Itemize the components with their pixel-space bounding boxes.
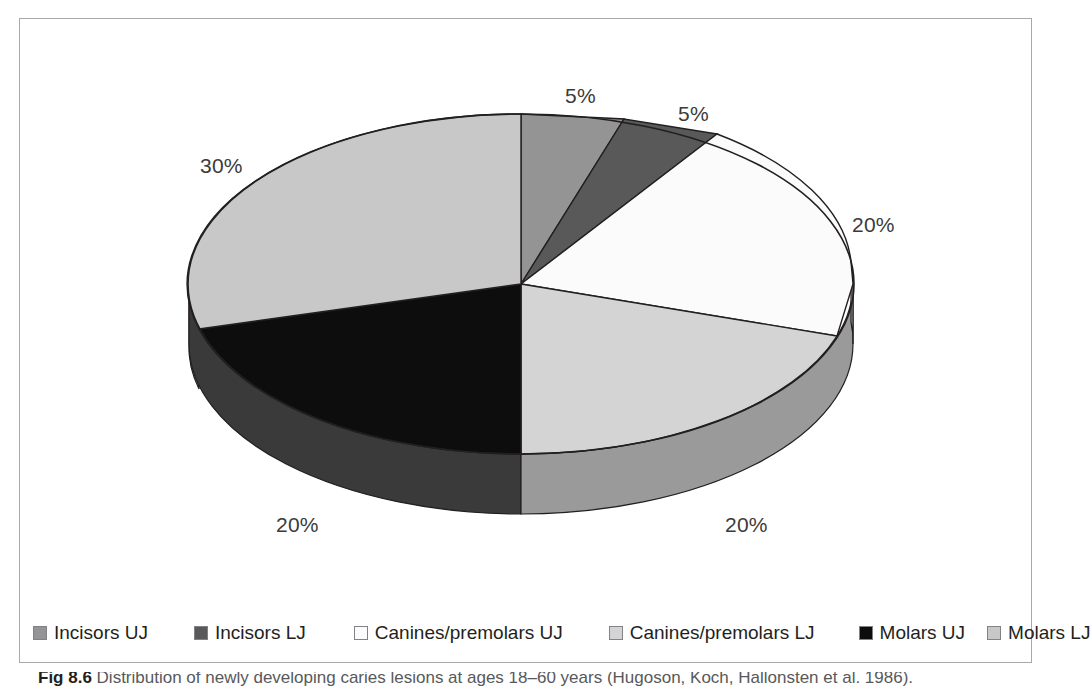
data-label-incisors-lj: 5% — [678, 102, 709, 126]
chart-legend: Incisors UJ Incisors LJ Canines/premolar… — [33, 615, 1033, 651]
figure-caption: Fig 8.6 Distribution of newly developing… — [38, 672, 913, 688]
legend-label-canines-premolars-uj: Canines/premolars UJ — [375, 623, 563, 643]
legend-swatch-icon-canines-premolars-uj — [354, 626, 368, 640]
data-label-molars-lj: 30% — [200, 154, 243, 178]
pie-chart-graphic — [20, 19, 1033, 604]
legend-label-canines-premolars-lj: Canines/premolars LJ — [630, 623, 815, 643]
legend-swatch-icon-incisors-uj — [33, 626, 47, 640]
legend-item-molars-lj[interactable]: Molars LJ — [987, 623, 1090, 643]
figure-caption-number: Fig 8.6 — [38, 672, 92, 687]
legend-label-incisors-uj: Incisors UJ — [54, 623, 148, 643]
pie-chart: 5% 5% 20% 20% 20% 30% — [20, 19, 1033, 604]
legend-label-molars-lj: Molars LJ — [1008, 623, 1090, 643]
legend-swatch-icon-canines-premolars-lj — [609, 626, 623, 640]
legend-label-molars-uj: Molars UJ — [880, 623, 966, 643]
legend-swatch-icon-molars-uj — [859, 626, 873, 640]
data-label-molars-uj: 20% — [276, 513, 319, 537]
legend-label-incisors-lj: Incisors LJ — [215, 623, 306, 643]
figure-caption-body: Distribution of newly developing caries … — [97, 672, 913, 687]
data-label-incisors-uj: 5% — [565, 84, 596, 108]
legend-item-canines-premolars-uj[interactable]: Canines/premolars UJ — [354, 623, 563, 643]
legend-swatch-icon-incisors-lj — [194, 626, 208, 640]
legend-item-canines-premolars-lj[interactable]: Canines/premolars LJ — [609, 623, 815, 643]
data-label-canines-premolars-lj: 20% — [725, 513, 768, 537]
figure-frame: 5% 5% 20% 20% 20% 30% Incisors UJ Inciso… — [19, 18, 1032, 663]
legend-item-molars-uj[interactable]: Molars UJ — [859, 623, 966, 643]
legend-item-incisors-uj[interactable]: Incisors UJ — [33, 623, 148, 643]
pie-top-surface — [187, 114, 854, 454]
legend-item-incisors-lj[interactable]: Incisors LJ — [194, 623, 306, 643]
figure-caption-strip: Fig 8.6 Distribution of newly developing… — [19, 672, 1032, 688]
data-label-canines-premolars-uj: 20% — [852, 213, 895, 237]
legend-swatch-icon-molars-lj — [987, 626, 1001, 640]
